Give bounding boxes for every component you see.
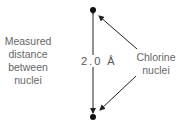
chlorine-nuclei-label: Chlorine nuclei bbox=[128, 51, 184, 77]
label-line: between bbox=[0, 61, 56, 74]
label-line: distance bbox=[0, 48, 56, 61]
measured-distance-label: Measured distance between nuclei bbox=[0, 35, 56, 87]
chlorine-nucleus-top bbox=[90, 7, 96, 13]
distance-value-label: 2.0 Å bbox=[80, 55, 118, 67]
label-line: nuclei bbox=[128, 64, 184, 77]
chlorine-nucleus-bottom bbox=[90, 114, 96, 120]
label-line: Chlorine bbox=[128, 51, 184, 64]
arrow-to-bottom-nucleus bbox=[100, 76, 136, 110]
label-line: nuclei bbox=[0, 74, 56, 87]
label-line: Measured bbox=[0, 35, 56, 48]
arrow-to-top-nucleus bbox=[99, 16, 137, 49]
